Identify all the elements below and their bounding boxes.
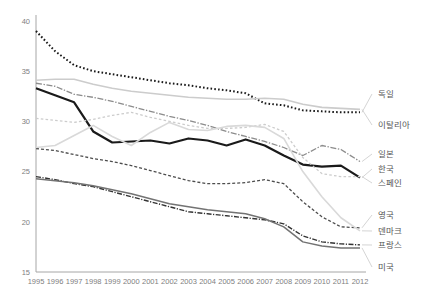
legend-leader-line — [362, 169, 372, 178]
y-axis: 152025303540 — [22, 15, 36, 277]
line-chart: 152025303540 199519961997199819992000200… — [0, 0, 428, 307]
y-tick-label: 40 — [22, 17, 30, 26]
series-line — [36, 83, 360, 161]
x-tick-label: 1997 — [66, 277, 83, 286]
legend-leader-line — [362, 94, 372, 112]
series-layer — [36, 31, 360, 248]
y-tick-label: 25 — [22, 167, 30, 176]
legend-label-이탈리아: 이탈리아 — [378, 120, 410, 130]
series-line — [36, 177, 360, 245]
x-tick-label: 2004 — [199, 277, 216, 286]
x-tick-label: 1998 — [85, 277, 102, 286]
y-tick-label: 20 — [22, 218, 30, 227]
x-tick-label: 1999 — [104, 277, 121, 286]
y-tick-label: 15 — [22, 268, 30, 277]
x-tick-label: 2003 — [180, 277, 197, 286]
x-tick-label: 2007 — [256, 277, 273, 286]
x-tick-label: 1996 — [47, 277, 64, 286]
legend-label-일본: 일본 — [378, 149, 394, 159]
x-tick-label: 2005 — [218, 277, 235, 286]
legend-leader-line — [362, 177, 372, 183]
series-line — [36, 149, 360, 228]
series-line — [36, 79, 360, 109]
x-tick-label: 2012 — [352, 277, 369, 286]
legend-layer: 독일이탈리아일본한국스페인영국덴마크프랑스미국 — [362, 89, 410, 272]
legend-leader-line — [362, 154, 372, 162]
legend-label-스페인: 스페인 — [378, 178, 402, 188]
legend-label-미국: 미국 — [378, 262, 394, 272]
x-tick-label: 2000 — [123, 277, 140, 286]
chart-svg: 152025303540 199519961997199819992000200… — [0, 0, 428, 307]
x-tick-label: 2006 — [237, 277, 254, 286]
x-tick-label: 2010 — [314, 277, 331, 286]
legend-leader-line — [362, 248, 372, 267]
series-line — [36, 112, 360, 176]
x-tick-label: 2001 — [142, 277, 159, 286]
x-tick-label: 2002 — [161, 277, 178, 286]
x-tick-label: 2009 — [294, 277, 311, 286]
legend-label-한국: 한국 — [378, 164, 394, 174]
x-tick-label: 1995 — [28, 277, 45, 286]
y-tick-label: 30 — [22, 117, 30, 126]
legend-label-프랑스: 프랑스 — [378, 240, 402, 250]
x-tick-label: 2008 — [275, 277, 292, 286]
y-tick-label: 35 — [22, 67, 30, 76]
legend-leader-line — [362, 109, 372, 125]
x-axis: 1995199619971998199920002001200220032004… — [28, 272, 369, 286]
legend-label-독일: 독일 — [378, 89, 394, 99]
legend-label-영국: 영국 — [378, 210, 394, 220]
legend-leader-line — [362, 215, 372, 228]
x-tick-label: 2011 — [333, 277, 349, 286]
series-line — [36, 31, 360, 112]
legend-label-덴마크: 덴마크 — [378, 226, 402, 236]
